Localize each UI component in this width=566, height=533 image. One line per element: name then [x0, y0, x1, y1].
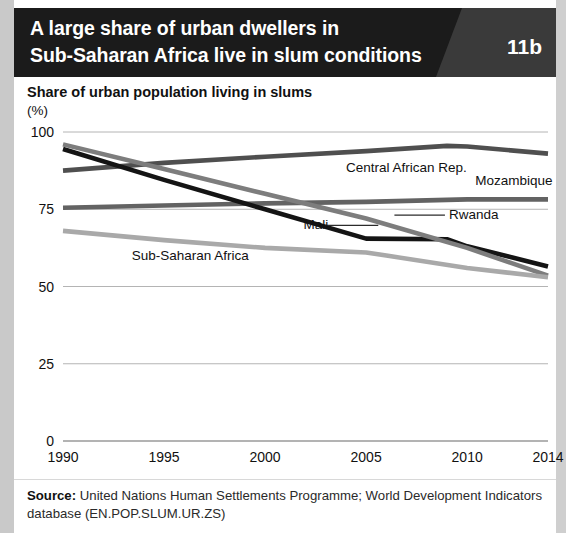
series-line-3 — [63, 144, 548, 275]
x-tick-2005: 2005 — [351, 449, 382, 465]
y-tick-50: 50 — [38, 279, 54, 295]
x-tick-2010: 2010 — [452, 449, 483, 465]
figure-title-line-1: A large share of urban dwellers in — [30, 15, 410, 42]
series-label-1: Mozambique — [475, 173, 552, 188]
figure-title-line-2: Sub-Saharan Africa live in slum conditio… — [30, 42, 410, 69]
series-line-2 — [63, 149, 548, 266]
gridlines — [63, 132, 548, 441]
page-left-edge-band — [0, 0, 14, 533]
source-label: Source: — [27, 488, 76, 503]
line-chart: 0255075100 199019952000200520102014 Cent… — [0, 0, 566, 533]
y-axis-unit-label: (%) — [27, 103, 48, 118]
series-line-1 — [63, 199, 548, 207]
page-right-edge-band — [556, 0, 566, 533]
series-label-4: Sub-Saharan Africa — [132, 248, 250, 263]
series-inline-labels: Central African Rep.MozambiqueMaliRwanda… — [132, 160, 553, 263]
y-tick-25: 25 — [38, 356, 54, 372]
source-note: Source: United Nations Human Settlements… — [27, 487, 547, 523]
y-tick-100: 100 — [31, 124, 55, 140]
series-label-0: Central African Rep. — [346, 160, 467, 175]
y-tick-0: 0 — [46, 433, 54, 449]
x-tick-2000: 2000 — [250, 449, 281, 465]
figure-title-bar: A large share of urban dwellers in Sub-S… — [14, 8, 556, 77]
series-label-2: Mali — [303, 217, 328, 232]
series-paths — [63, 144, 548, 277]
x-tick-1995: 1995 — [148, 449, 179, 465]
series-line-0 — [63, 146, 548, 171]
y-axis-tick-labels: 0255075100 — [31, 124, 55, 449]
series-leader-lines — [326, 215, 445, 225]
figure-number-badge: 11b — [507, 35, 542, 59]
series-label-3: Rwanda — [449, 207, 499, 222]
series-line-4 — [63, 231, 548, 277]
x-axis-tick-labels: 199019952000200520102014 — [47, 449, 563, 465]
y-tick-75: 75 — [38, 201, 54, 217]
chart-container: 0255075100 199019952000200520102014 Cent… — [0, 0, 566, 533]
figure-page: A large share of urban dwellers in Sub-S… — [0, 0, 566, 533]
figure-title: A large share of urban dwellers in Sub-S… — [30, 15, 410, 69]
chart-subtitle: Share of urban population living in slum… — [27, 84, 312, 100]
source-text: United Nations Human Settlements Program… — [27, 488, 542, 521]
x-tick-1990: 1990 — [47, 449, 78, 465]
source-divider — [14, 479, 556, 480]
